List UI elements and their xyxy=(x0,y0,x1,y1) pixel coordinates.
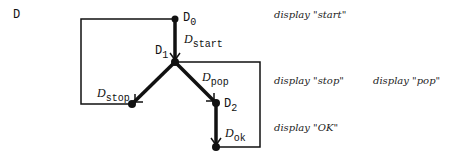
label-stop: Dstop xyxy=(97,83,130,101)
action-start: display "start" xyxy=(274,9,346,20)
label-ok-base: D xyxy=(225,126,234,140)
label-stop-base: D xyxy=(97,86,106,100)
label-start: Dstart xyxy=(184,29,223,47)
action-stop: display "stop" xyxy=(274,75,344,86)
label-start-base: D xyxy=(184,32,193,46)
label-pop-base: D xyxy=(202,70,211,84)
label-ok-sub: ok xyxy=(234,133,246,144)
label-d1: D1 xyxy=(155,41,168,59)
diagram-title: D xyxy=(13,8,20,22)
node-d2 xyxy=(212,99,220,107)
label-stop-sub: stop xyxy=(106,93,130,104)
action-ok: display "OK" xyxy=(274,122,338,133)
node-d0 xyxy=(172,16,179,23)
label-d2: D2 xyxy=(224,94,237,112)
edge-stop xyxy=(132,62,175,104)
label-d0-sub: 0 xyxy=(190,17,196,28)
label-pop: Dpop xyxy=(202,67,229,85)
label-ok: Dok xyxy=(225,123,246,141)
node-d1 xyxy=(171,58,179,66)
label-d1-sub: 1 xyxy=(162,50,168,61)
label-d0: D0 xyxy=(183,8,196,26)
label-start-sub: start xyxy=(193,39,223,50)
action-pop: display "pop" xyxy=(373,75,440,86)
label-pop-sub: pop xyxy=(211,77,229,88)
label-d2-sub: 2 xyxy=(231,103,237,114)
node-ok xyxy=(212,143,220,151)
